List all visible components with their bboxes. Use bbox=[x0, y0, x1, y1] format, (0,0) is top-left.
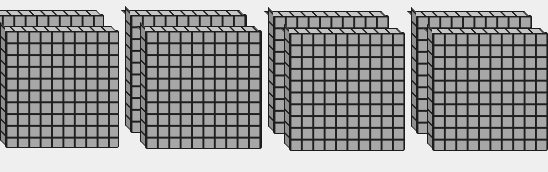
hundred-flat-front bbox=[432, 32, 548, 151]
hundred-flat-front bbox=[289, 32, 405, 151]
hundred-flat-front bbox=[145, 30, 262, 149]
hundred-flat-front bbox=[5, 30, 119, 148]
